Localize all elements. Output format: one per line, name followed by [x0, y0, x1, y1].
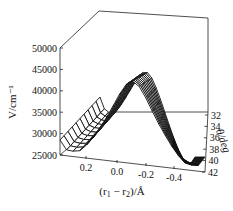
- x-tick-label: 0.0: [111, 166, 124, 177]
- x-axis-ticks: 0.20.0-0.2-0.4: [80, 156, 182, 183]
- z-axis-label: V/cm⁻¹: [6, 85, 18, 119]
- surface-mesh: [60, 73, 205, 166]
- z-tick-label: 45000: [32, 64, 57, 75]
- z-tick-label: 30000: [32, 128, 57, 139]
- z-tick-label: 40000: [32, 85, 57, 96]
- x-tick-label: 0.2: [80, 162, 93, 173]
- z-tick-label: 35000: [32, 107, 57, 118]
- surface-plot-canvas: 500004500040000350003000025000 0.20.0-0.…: [0, 0, 233, 211]
- z-tick-label: 25000: [32, 150, 57, 161]
- z-axis-ticks: 500004500040000350003000025000: [32, 43, 63, 161]
- x-axis-label: (r1 − r2)/Å: [99, 185, 144, 199]
- theta-tick-label: 40: [209, 155, 219, 166]
- x-tick-label: -0.4: [166, 172, 182, 183]
- theta-tick-label: 38: [209, 144, 219, 155]
- x-tick-label: -0.2: [138, 169, 154, 180]
- z-tick-label: 50000: [32, 43, 57, 54]
- theta-tick-label: 32: [211, 110, 221, 121]
- theta-tick-label: 42: [208, 167, 218, 178]
- surface-plot-figure: 500004500040000350003000025000 0.20.0-0.…: [0, 0, 233, 211]
